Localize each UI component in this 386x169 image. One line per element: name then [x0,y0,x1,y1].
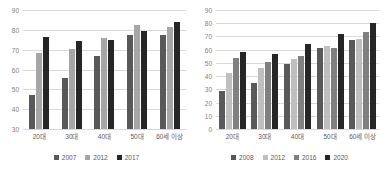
x-tick-label: 40대 [88,131,121,143]
left-bar-groups [23,10,186,129]
bar [284,64,290,129]
bar-group [121,10,154,129]
bar-group [249,10,282,129]
x-tick-label: 30대 [249,131,282,143]
left-chart-panel: 30405060708090 20대30대40대50대60세 이상 200720… [0,0,193,169]
gridline [23,129,186,130]
bar [265,62,271,129]
bar [251,83,257,129]
bar [76,41,82,129]
bar [349,40,355,129]
legend-swatch-icon [294,155,299,160]
legend-label: 2017 [125,154,139,161]
bar-group [216,10,249,129]
bar [291,59,297,129]
legend-label: 2016 [302,154,316,161]
right-x-axis-labels: 20대30대40대50대60세 이상 [216,131,379,143]
bar [356,39,362,129]
legend-item[interactable]: 2012 [263,154,285,161]
y-tick-label: 30 [12,126,19,133]
bar [305,44,311,129]
bar [141,31,147,129]
left-x-axis-labels: 20대30대40대50대60세 이상 [23,131,186,143]
y-tick-label: 40 [12,106,19,113]
dual-bar-chart-figure: 30405060708090 20대30대40대50대60세 이상 200720… [0,0,386,169]
legend-label: 2012 [271,154,285,161]
right-y-axis-labels: 0102030405060708090 [193,10,214,129]
legend-item[interactable]: 2007 [54,154,76,161]
bar [298,56,304,129]
y-tick-label: 40 [205,73,212,80]
bar [62,78,68,129]
bar [29,95,35,129]
legend-swatch-icon [117,155,122,160]
legend-item[interactable]: 2008 [231,154,253,161]
y-tick-label: 60 [205,46,212,53]
bar [338,34,344,129]
x-tick-label: 60세 이상 [346,131,379,143]
bar [43,37,49,129]
bar-group [56,10,89,129]
bar [324,46,330,129]
right-plot-area [216,10,379,129]
y-tick-label: 80 [205,20,212,27]
legend-swatch-icon [263,155,268,160]
bar [233,58,239,129]
bar [226,73,232,129]
x-tick-label: 40대 [281,131,314,143]
y-tick-label: 90 [12,7,19,14]
bar [219,91,225,129]
bar [167,27,173,129]
y-tick-label: 30 [205,86,212,93]
bar-group [281,10,314,129]
right-bar-groups [216,10,379,129]
bar [370,23,376,129]
right-legend: 2008201220162020 [193,154,386,161]
bar [101,38,107,129]
legend-item[interactable]: 2017 [117,154,139,161]
left-plot-area [23,10,186,129]
bar [127,35,133,129]
gridline [216,129,379,130]
left-legend: 200720122017 [0,154,193,161]
bar [174,22,180,129]
bar-group [314,10,347,129]
y-tick-label: 10 [205,112,212,119]
y-tick-label: 60 [12,66,19,73]
bar [272,54,278,129]
bar [160,35,166,129]
bar [240,52,246,129]
legend-swatch-icon [325,155,330,160]
x-tick-label: 20대 [23,131,56,143]
y-tick-label: 70 [205,33,212,40]
x-tick-label: 60세 이상 [153,131,186,143]
legend-label: 2007 [62,154,76,161]
legend-item[interactable]: 2012 [85,154,107,161]
bar [69,49,75,129]
x-tick-label: 20대 [216,131,249,143]
bar-group [346,10,379,129]
x-tick-label: 50대 [314,131,347,143]
bar-group [23,10,56,129]
bar [36,53,42,129]
legend-swatch-icon [54,155,59,160]
x-tick-label: 50대 [121,131,154,143]
bar [258,68,264,129]
legend-item[interactable]: 2016 [294,154,316,161]
legend-label: 2020 [333,154,347,161]
bar [317,48,323,129]
y-tick-label: 0 [208,126,212,133]
bar [363,32,369,129]
y-tick-label: 70 [12,46,19,53]
legend-label: 2012 [93,154,107,161]
legend-swatch-icon [85,155,90,160]
y-tick-label: 80 [12,26,19,33]
bar [108,40,114,129]
y-tick-label: 50 [205,59,212,66]
x-tick-label: 30대 [56,131,89,143]
legend-item[interactable]: 2020 [325,154,347,161]
y-tick-label: 20 [205,99,212,106]
bar [94,56,100,129]
bar-group [153,10,186,129]
bar-group [88,10,121,129]
